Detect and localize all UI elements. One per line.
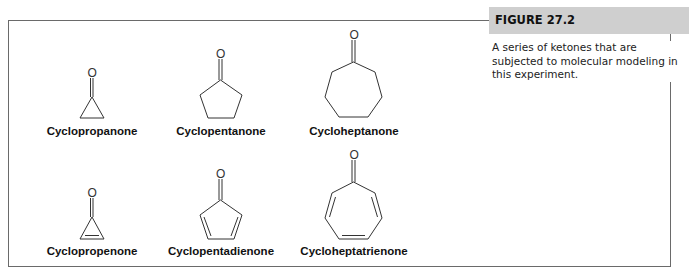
- cyclopentanone-structure: [200, 59, 242, 118]
- cycloheptatrienone-structure: [325, 160, 382, 239]
- oxygen-label: O: [350, 148, 359, 162]
- molecule-label: Cyclopentanone: [176, 125, 265, 137]
- oxygen-label: O: [88, 66, 97, 80]
- cyclopropenone-structure: [80, 198, 104, 239]
- molecule-label: Cycloheptanone: [309, 125, 398, 137]
- molecule-label: Cyclopropenone: [47, 245, 138, 257]
- molecule-label: Cycloheptatrienone: [300, 245, 407, 257]
- oxygen-label: O: [350, 28, 359, 42]
- molecule-structures: O O O O O O: [0, 0, 689, 280]
- cyclopentadienone-structure: [200, 179, 242, 239]
- oxygen-label: O: [216, 167, 225, 181]
- oxygen-label: O: [216, 47, 225, 61]
- molecule-label: Cyclopropanone: [47, 125, 138, 137]
- cycloheptanone-structure: [325, 40, 382, 117]
- molecule-label: Cyclopentadienone: [168, 245, 274, 257]
- cyclopropanone-structure: [80, 78, 104, 118]
- oxygen-label: O: [88, 186, 97, 200]
